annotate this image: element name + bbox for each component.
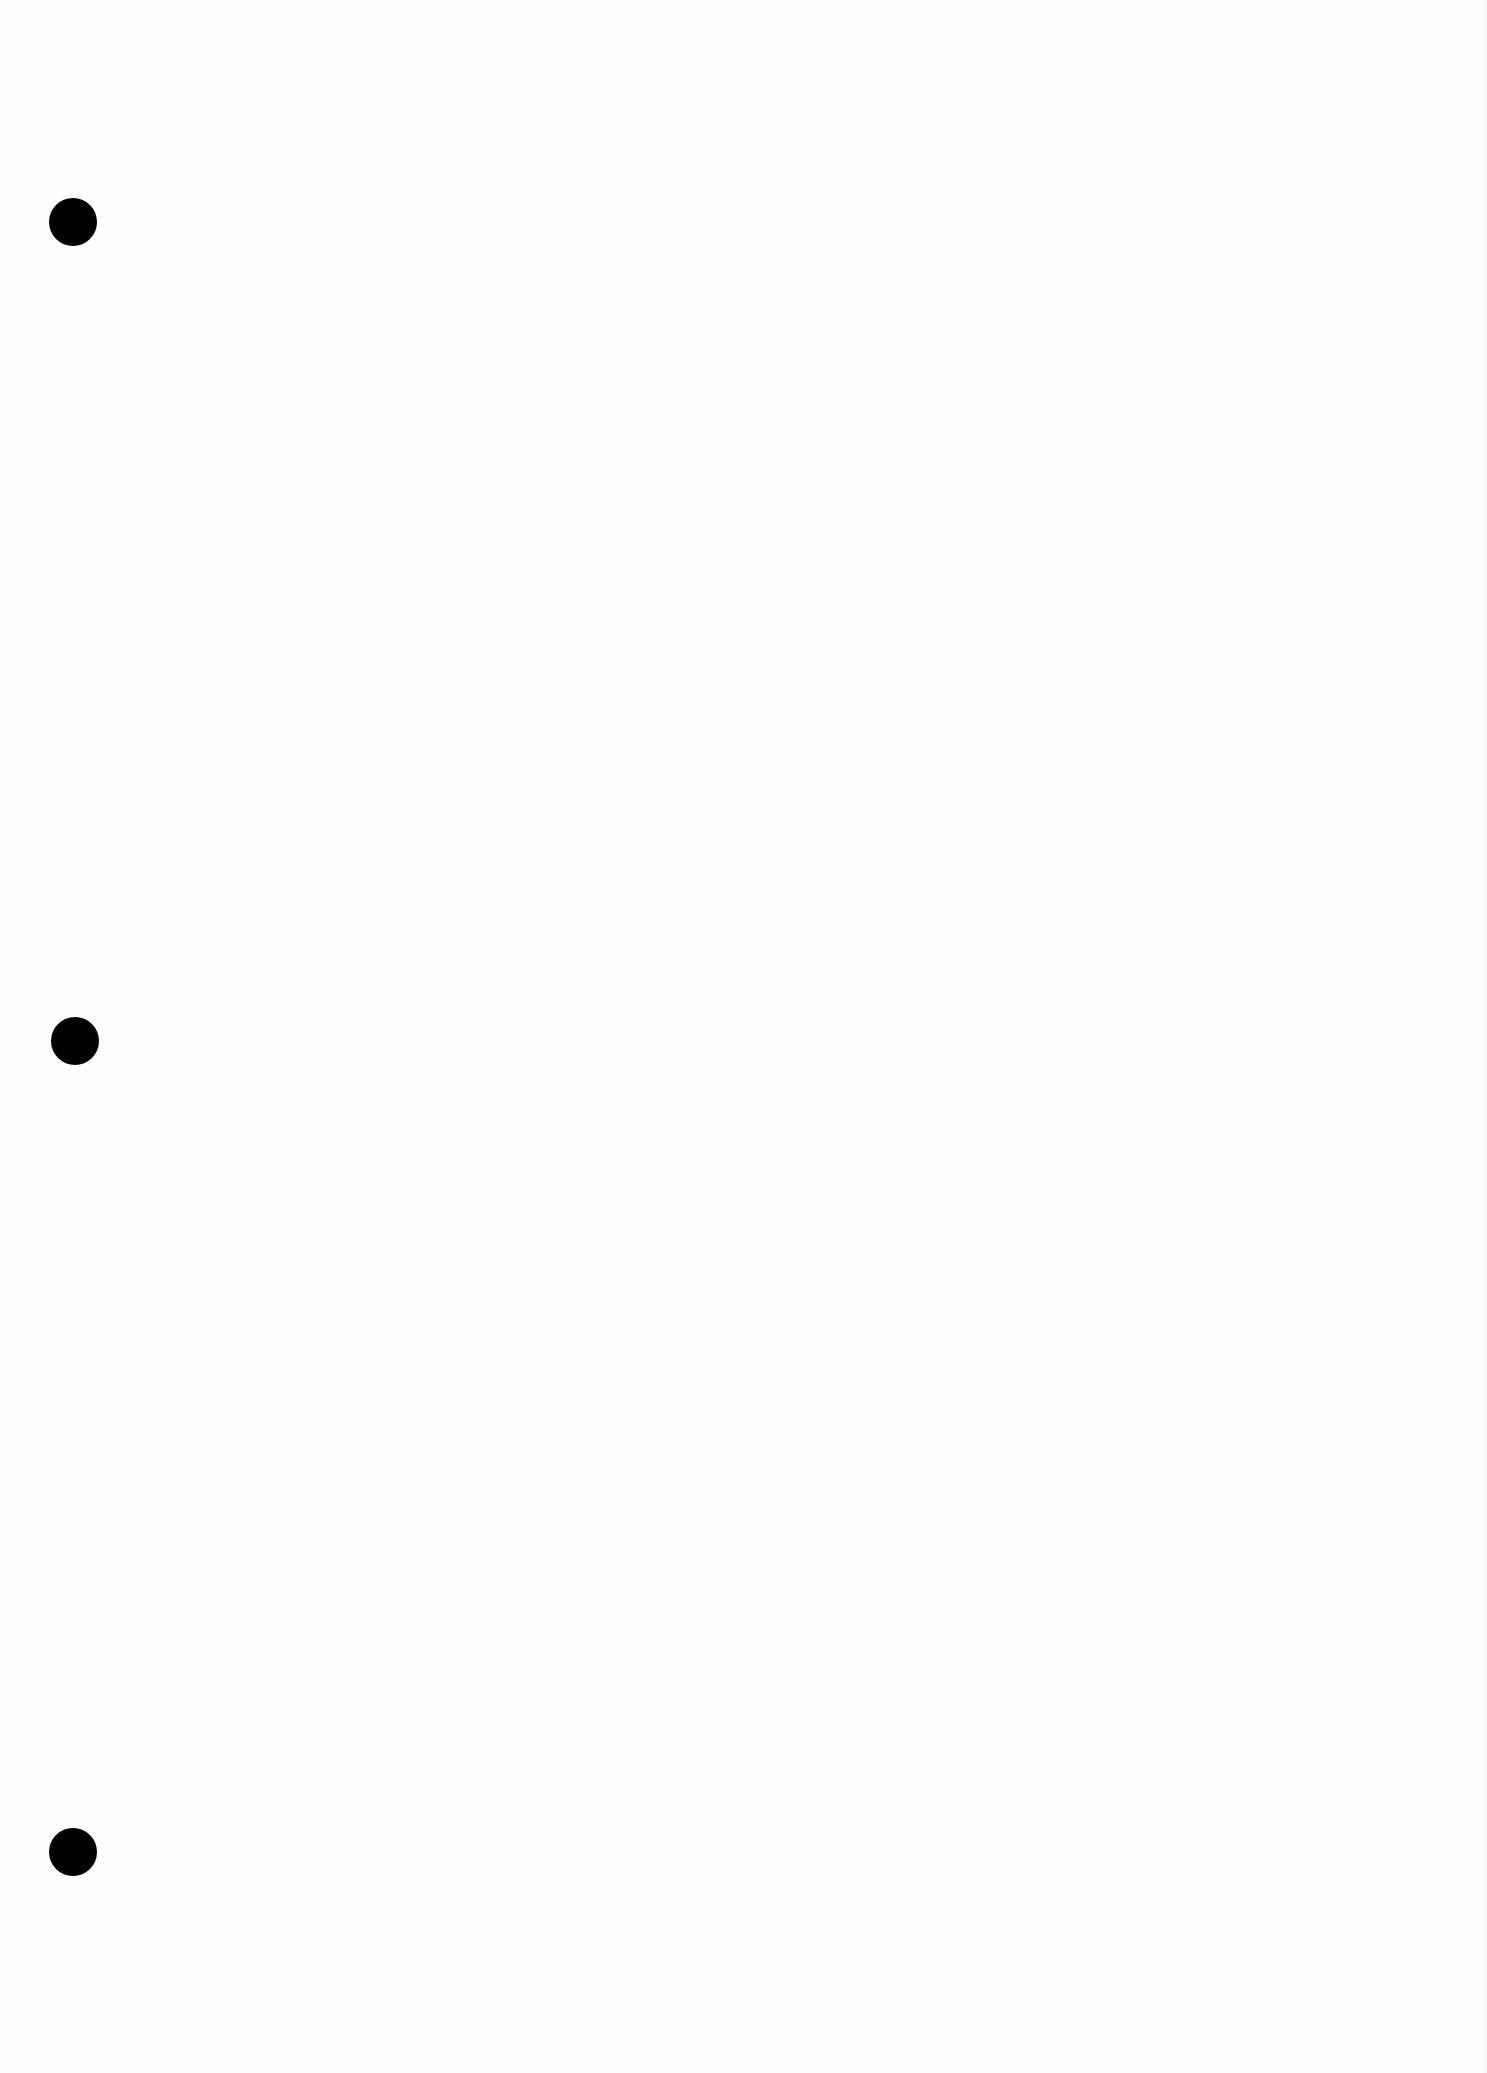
punch-hole-top — [49, 198, 97, 246]
punch-hole-bottom — [49, 1828, 97, 1876]
punch-hole-middle — [51, 1017, 99, 1065]
page-edge-shadow — [1481, 0, 1487, 2073]
blank-document-page — [0, 0, 1487, 2073]
